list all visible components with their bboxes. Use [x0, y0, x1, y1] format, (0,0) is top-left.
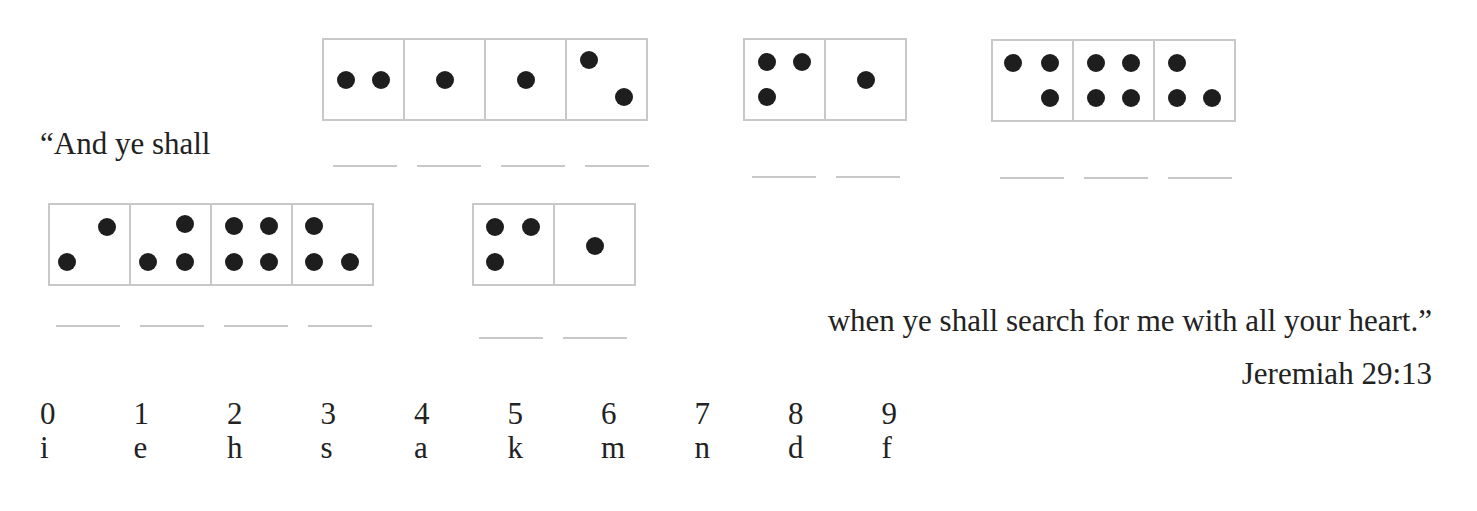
key-digit: 5 — [508, 398, 602, 429]
die-face — [403, 38, 486, 121]
key-digit: 9 — [882, 398, 976, 429]
pip-icon — [1122, 89, 1140, 107]
pip-icon — [758, 53, 776, 71]
answer-blank[interactable] — [836, 176, 900, 178]
key-letter: a — [414, 432, 508, 463]
key-digit: 6 — [601, 398, 695, 429]
pip-icon — [260, 217, 278, 235]
pip-icon — [1122, 54, 1140, 72]
answer-blank[interactable] — [333, 165, 397, 167]
die-face — [743, 38, 826, 121]
pip-icon — [260, 253, 278, 271]
answer-blank[interactable] — [1168, 177, 1232, 179]
pip-icon — [1203, 89, 1221, 107]
answer-blank[interactable] — [1084, 177, 1148, 179]
pip-icon — [305, 217, 323, 235]
pip-icon — [517, 71, 535, 89]
die-face — [129, 203, 212, 286]
die-face — [991, 39, 1074, 122]
answer-blank[interactable] — [417, 165, 481, 167]
pip-icon — [1041, 54, 1059, 72]
die-face — [322, 38, 405, 121]
quote-start: “And ye shall — [40, 128, 210, 159]
pip-icon — [176, 215, 194, 233]
answer-blanks-word-4[interactable] — [56, 325, 392, 327]
scripture-reference: Jeremiah 29:13 — [1242, 358, 1432, 389]
pip-icon — [225, 217, 243, 235]
pip-icon — [857, 71, 875, 89]
answer-blank[interactable] — [1000, 177, 1064, 179]
die-face — [484, 38, 567, 121]
pip-icon — [793, 53, 811, 71]
die-face — [1072, 39, 1155, 122]
key-letter: d — [788, 432, 882, 463]
pip-icon — [1087, 54, 1105, 72]
die-face — [1153, 39, 1236, 122]
die-face — [210, 203, 293, 286]
answer-blanks-word-5[interactable] — [479, 337, 647, 339]
key-letter: i — [40, 432, 134, 463]
answer-blanks-word-1[interactable] — [333, 165, 669, 167]
pip-icon — [305, 253, 323, 271]
pip-icon — [1004, 54, 1022, 72]
quote-end: when ye shall search for me with all you… — [828, 305, 1432, 336]
key-letter: n — [695, 432, 789, 463]
pip-icon — [341, 253, 359, 271]
answer-blank[interactable] — [585, 165, 649, 167]
pip-icon — [58, 253, 76, 271]
answer-blank[interactable] — [140, 325, 204, 327]
pip-icon — [758, 88, 776, 106]
pip-icon — [1168, 54, 1186, 72]
dice-word-5 — [472, 203, 636, 286]
dice-word-2 — [743, 38, 907, 121]
key-letter: e — [134, 432, 228, 463]
key-digit: 8 — [788, 398, 882, 429]
pip-icon — [522, 218, 540, 236]
key-digit: 3 — [321, 398, 415, 429]
pip-icon — [337, 71, 355, 89]
dice-word-3 — [991, 39, 1236, 122]
answer-blank[interactable] — [563, 337, 627, 339]
answer-blank[interactable] — [224, 325, 288, 327]
answer-blank[interactable] — [501, 165, 565, 167]
pip-icon — [225, 253, 243, 271]
answer-blanks-word-2[interactable] — [752, 176, 920, 178]
die-face — [48, 203, 131, 286]
answer-blank[interactable] — [56, 325, 120, 327]
pip-icon — [1168, 89, 1186, 107]
die-face — [553, 203, 636, 286]
key-digits-row: 0 1 2 3 4 5 6 7 8 9 — [40, 398, 975, 429]
die-face — [472, 203, 555, 286]
dice-word-1 — [322, 38, 648, 121]
answer-blank[interactable] — [752, 176, 816, 178]
key-digit: 2 — [227, 398, 321, 429]
answer-blanks-word-3[interactable] — [1000, 177, 1252, 179]
key-letter: f — [882, 432, 976, 463]
key-letter: h — [227, 432, 321, 463]
dice-word-4 — [48, 203, 374, 286]
key-digit: 7 — [695, 398, 789, 429]
key-letter: s — [321, 432, 415, 463]
die-face — [291, 203, 374, 286]
answer-blank[interactable] — [479, 337, 543, 339]
die-face — [824, 38, 907, 121]
key-letter: m — [601, 432, 695, 463]
pip-icon — [98, 218, 116, 236]
pip-icon — [176, 253, 194, 271]
pip-icon — [580, 51, 598, 69]
key-letters-row: i e h s a k m n d f — [40, 432, 975, 463]
pip-icon — [1041, 89, 1059, 107]
pip-icon — [139, 253, 157, 271]
key-digit: 0 — [40, 398, 134, 429]
key-digit: 1 — [134, 398, 228, 429]
pip-icon — [615, 88, 633, 106]
answer-blank[interactable] — [308, 325, 372, 327]
pip-icon — [486, 253, 504, 271]
pip-icon — [436, 71, 454, 89]
key-digit: 4 — [414, 398, 508, 429]
key-letter: k — [508, 432, 602, 463]
die-face — [565, 38, 648, 121]
pip-icon — [1087, 89, 1105, 107]
pip-icon — [372, 71, 390, 89]
pip-icon — [586, 237, 604, 255]
